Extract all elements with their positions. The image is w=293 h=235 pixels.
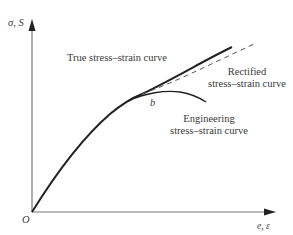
engineering-label-line2: stress–strain curve xyxy=(164,125,254,137)
true-curve-label: True stress–strain curve xyxy=(67,52,167,64)
rectified-curve-label: Rectified stress–strain curve xyxy=(202,66,292,90)
engineering-curve-label: Engineering stress–strain curve xyxy=(164,113,254,137)
x-axis-arrow-icon xyxy=(264,209,276,216)
y-axis-arrow-icon xyxy=(29,19,36,31)
point-b-label: b xyxy=(150,97,155,109)
engineering-curve xyxy=(128,91,206,102)
engineering-label-line1: Engineering xyxy=(164,113,254,125)
initial-curve xyxy=(32,94,142,212)
origin-label: O xyxy=(22,214,30,226)
x-axis-label: e, ε xyxy=(257,220,270,232)
rectified-label-line2: stress–strain curve xyxy=(202,78,292,90)
rectified-label-line1: Rectified xyxy=(202,66,292,78)
stress-strain-diagram: σ, S e, ε O True stress–strain curve Rec… xyxy=(0,0,293,235)
y-axis-label: σ, S xyxy=(8,17,24,29)
